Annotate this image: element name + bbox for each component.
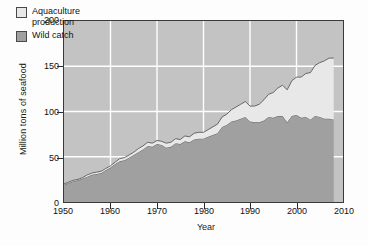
wild-catch-swatch-icon (16, 31, 27, 42)
x-tick-label-2010: 2010 (324, 206, 364, 216)
x-tick-label-1950: 1950 (43, 206, 83, 216)
legend-item-aquaculture: Aquaculture production (16, 6, 80, 28)
x-tick-label-1980: 1980 (184, 206, 224, 216)
chart-legend: Aquaculture production Wild catch (16, 6, 80, 44)
y-tick-label-50: 50 (29, 154, 59, 163)
legend-label-aquaculture: Aquaculture production (32, 6, 80, 28)
x-tick-label-1970: 1970 (137, 206, 177, 216)
y-tick-label-150: 150 (29, 62, 59, 71)
x-axis-title: Year (0, 222, 368, 232)
area-wild-catch (64, 115, 334, 202)
legend-label-aquaculture-line2: production (32, 17, 80, 28)
y-tick-label-100: 100 (29, 108, 59, 117)
x-tick-label-1990: 1990 (230, 206, 270, 216)
aquaculture-swatch-icon (16, 7, 27, 18)
legend-label-aquaculture-line1: Aquaculture (32, 6, 80, 17)
x-tick-label-2000: 2000 (277, 206, 317, 216)
area-chart-svg (64, 21, 343, 202)
seafood-production-chart: Million tons of seafood 200 150 100 50 0… (0, 0, 368, 245)
x-tick-label-1960: 1960 (90, 206, 130, 216)
x-axis-title-text: Year (197, 222, 215, 232)
area-series (64, 58, 334, 202)
legend-label-wild-catch: Wild catch (32, 30, 74, 41)
plot-area (63, 20, 344, 203)
legend-item-wild-catch: Wild catch (16, 30, 80, 42)
